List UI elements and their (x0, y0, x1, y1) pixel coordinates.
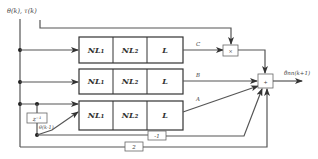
sum-symbol: + (263, 79, 267, 85)
gain-neg1-label: -1 (154, 133, 159, 139)
l-block: L (161, 110, 168, 120)
gain-2-label: 2 (131, 144, 136, 150)
neural-network-block-diagram: θ(k), τ(k) z⁻¹ θ(k-1) NL₁ NL₂ L NL₁ NL₂ … (0, 0, 318, 159)
b-label: B (195, 72, 200, 78)
nl2-block: NL₂ (121, 45, 139, 55)
nl1-block: NL₁ (87, 76, 104, 86)
a-output-line (183, 86, 258, 112)
input-label: θ(k), τ(k) (7, 7, 37, 15)
nl1-block: NL₁ (87, 110, 104, 120)
row1-network: NL₁ NL₂ L (79, 37, 183, 63)
multiply-symbol: × (228, 48, 232, 54)
delay-label: z⁻¹ (32, 115, 42, 122)
l-block: L (161, 76, 168, 86)
delayed-signal-label: θ(k-1) (39, 124, 54, 130)
c-label: C (196, 41, 201, 47)
row2-network: NL₁ NL₂ L (79, 69, 183, 94)
nl2-block: NL₂ (121, 110, 139, 120)
l-block: L (161, 45, 168, 55)
nl2-block: NL₂ (121, 76, 139, 86)
row3-network: NL₁ NL₂ L (79, 101, 183, 130)
a-label: A (195, 96, 200, 102)
output-label: θ̂nn(k+1) (284, 70, 310, 76)
nl1-block: NL₁ (87, 45, 104, 55)
product-to-sum-line (238, 50, 265, 73)
